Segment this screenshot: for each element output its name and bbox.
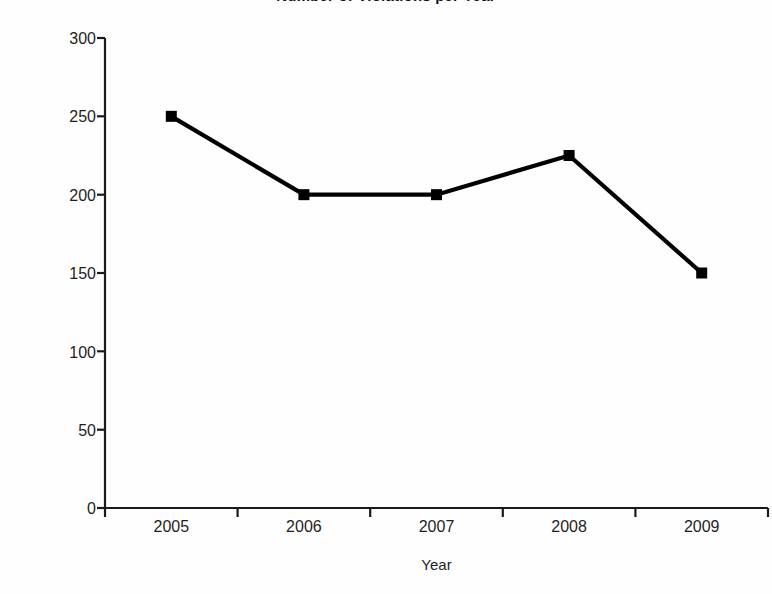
data-point-marker bbox=[298, 189, 309, 200]
data-point-marker bbox=[696, 268, 707, 279]
line-chart: Number of Violations per Year Number of … bbox=[0, 0, 772, 594]
data-point-marker bbox=[166, 111, 177, 122]
data-point-marker bbox=[431, 189, 442, 200]
plot-area bbox=[0, 0, 772, 594]
x-axis-ticks bbox=[105, 508, 768, 517]
series-markers bbox=[166, 111, 707, 279]
data-point-marker bbox=[564, 150, 575, 161]
y-axis-ticks bbox=[97, 38, 105, 508]
